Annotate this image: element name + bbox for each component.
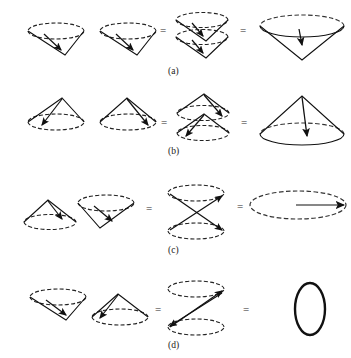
figure-container: = = = = = = = = (a) (b) (c) (d) (0, 0, 351, 358)
ellipse-front-arc (100, 122, 156, 130)
generator-arrow (42, 99, 62, 125)
row-label-a: (a) (168, 66, 179, 76)
row-d-equals-1: = (155, 303, 161, 315)
row-d-intermediate-double-cone-hourglass (168, 281, 224, 335)
lower-cone-sides (176, 37, 228, 58)
vertical-ellipse (295, 283, 325, 335)
bottom-ellipse-front (168, 231, 224, 239)
row-c-result-flat-ellipse-with-arrow (250, 191, 346, 219)
ellipse-front-arc (28, 122, 84, 130)
ellipse-back-arc (100, 23, 156, 31)
row-label-d: (d) (168, 340, 179, 350)
row-d-operand-2-cone-up (92, 294, 148, 325)
ellipse-front-arc (100, 31, 156, 39)
row-a-operand-2-cone-down (100, 23, 156, 55)
ellipse-back-arc (260, 123, 344, 134)
generator-arrow (44, 34, 61, 50)
lower-generator-arrow (186, 115, 204, 136)
generator-arrow (116, 34, 133, 50)
row-a-operand-1-cone-down (28, 23, 84, 55)
top-ellipse-back (168, 185, 224, 193)
row-d-result-vertical-ellipse (295, 283, 325, 335)
axis-arrow (302, 97, 307, 136)
upper-cone-sides (176, 20, 228, 41)
ellipse-back-arc (260, 15, 344, 26)
ellipse-front-arc (260, 134, 344, 145)
row-a-equals-2: = (240, 24, 246, 36)
lower-generator-arrow (192, 40, 203, 53)
row-c-operand-2-cone-down (78, 195, 134, 228)
row-d-equals-2: = (243, 303, 249, 315)
row-c-equals-2: = (237, 200, 243, 212)
cone-side-lines (100, 31, 156, 55)
upper-ellipse-back (176, 13, 228, 20)
cone-side-lines (100, 98, 156, 122)
ellipse-back-arc (28, 114, 84, 122)
row-c-equals-1: = (146, 202, 152, 214)
generator-arrow (94, 206, 112, 221)
lower-ellipse-back (176, 30, 228, 38)
row-b-operand-1-cone-up (28, 98, 84, 130)
lower-ellipse-front (177, 133, 229, 141)
row-c-operand-1-cone-up (24, 200, 76, 230)
row-label-c: (c) (168, 245, 179, 255)
row-c-intermediate-double-cone-hourglass (168, 185, 224, 239)
ellipse-back-arc (78, 195, 134, 203)
upper-ellipse-front (176, 20, 228, 28)
row-b-intermediate-stacked-cones-up (177, 94, 229, 141)
bottom-ellipse-back (168, 223, 224, 231)
top-ellipse-back (168, 281, 224, 289)
ellipse-front-arc (30, 297, 86, 305)
ellipse-front-arc (28, 31, 84, 39)
ellipse-back-arc (28, 23, 84, 31)
row-d-operand-1-cone-down (30, 289, 86, 320)
row-a-equals-1: = (160, 24, 166, 36)
cone-side-lines (28, 31, 84, 55)
row-b-equals-2: = (241, 116, 247, 128)
generator-arrow (127, 99, 148, 125)
upper-cone-sides (177, 94, 229, 113)
row-b-equals-1: = (161, 116, 167, 128)
row-b-operand-2-cone-up (100, 98, 156, 130)
row-a-intermediate-stacked-cones-down (176, 13, 228, 59)
cone-side-lines (92, 294, 148, 317)
row-a-result-large-cone-down (260, 15, 344, 60)
generator-arrow (100, 295, 118, 318)
ellipse-front-arc (260, 26, 344, 37)
bottom-ellipse-front (168, 327, 224, 335)
ellipse-back-arc (30, 289, 86, 297)
row-label-b: (b) (168, 146, 179, 156)
cone-side-lines (28, 98, 84, 122)
generator-arrow (46, 300, 66, 315)
row-b-result-large-cone-up (260, 96, 344, 145)
ellipse-front-arc (24, 222, 76, 230)
crossing-arrow-down-left (170, 293, 222, 326)
cone-identity-diagram (0, 0, 351, 358)
